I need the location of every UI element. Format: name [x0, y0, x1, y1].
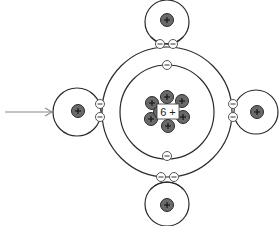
nucleus-charge-label: 6 +: [160, 106, 176, 118]
methane-bonding-diagram: 6 +: [0, 0, 279, 226]
hydrogen-nucleus-left: [72, 105, 85, 118]
inner-electron-top: [163, 61, 172, 70]
hydrogen-nucleus-right: [251, 106, 264, 119]
proton: [161, 91, 174, 104]
proton: [162, 120, 175, 133]
hydrogen-nucleus-bottom: [161, 199, 174, 212]
pointer-arrow: [5, 108, 52, 116]
inner-electron-bottom: [163, 152, 172, 161]
hydrogen-nucleus-top: [161, 14, 174, 27]
